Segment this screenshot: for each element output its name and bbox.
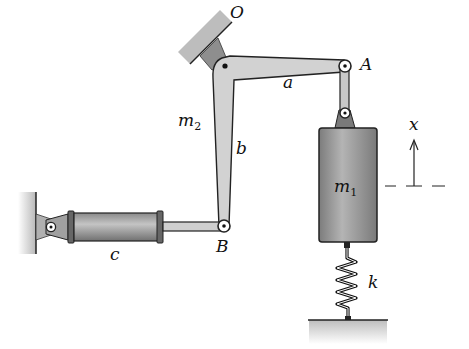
- hydraulic-cylinder-c: [46, 211, 221, 243]
- pivot-O-pin: [222, 63, 227, 68]
- label-A: A: [360, 56, 372, 73]
- label-m1-sub: 1: [350, 186, 357, 199]
- displacement-x-indicator: [385, 140, 445, 186]
- label-a: a: [283, 74, 293, 91]
- label-O: O: [230, 4, 244, 21]
- label-m2: m2: [178, 112, 201, 132]
- ground: [308, 320, 388, 344]
- spring-k: [337, 242, 356, 320]
- label-x: x: [409, 116, 419, 133]
- mechanism-diagram: [0, 0, 469, 349]
- joint-B: [218, 220, 230, 232]
- label-c: c: [110, 246, 120, 263]
- label-k: k: [368, 274, 378, 291]
- joint-A: [339, 60, 351, 72]
- label-m1-base: m: [334, 176, 350, 196]
- label-m2-sub: 2: [194, 120, 201, 133]
- label-B: B: [216, 238, 229, 255]
- link-A-m1: [335, 66, 355, 128]
- label-m1: m1: [334, 178, 357, 198]
- label-b: b: [236, 140, 247, 157]
- label-m2-base: m: [178, 110, 194, 130]
